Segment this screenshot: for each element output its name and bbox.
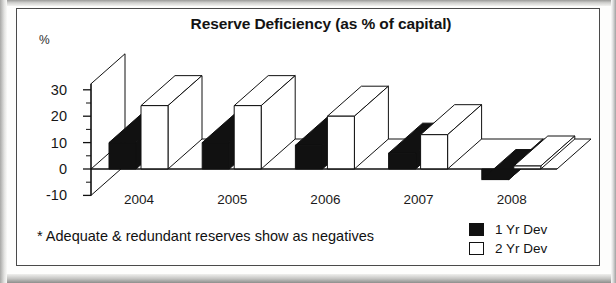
bar-front-face [389,153,416,169]
page-edge-top [0,0,616,6]
legend-swatch-icon [469,223,484,236]
page-edge-right [611,0,616,283]
page-edge-bottom [0,274,616,283]
chart-legend: 1 Yr Dev2 Yr Dev [469,221,589,259]
bar-front-face [141,106,168,169]
y-tick-label-20: 20 [33,108,67,124]
legend-swatch-icon [469,242,484,255]
bar-2004-2-yr-dev [141,76,202,169]
bar-2006-2-yr-dev [327,86,388,169]
scanned-page-area: Reserve Deficiency (as % of capital) % -… [0,0,616,283]
y-tick-label-10: 10 [33,135,67,151]
bar-front-face [421,135,448,169]
legend-label: 2 Yr Dev [495,241,547,256]
legend-label: 1 Yr Dev [495,222,547,237]
bars-group [109,76,575,180]
chart-frame: Reserve Deficiency (as % of capital) % -… [16,8,600,266]
x-tick-label-2004: 2004 [124,192,154,207]
x-axis: 20042005200620072008 [17,192,601,214]
page-edge-left [0,0,7,283]
bar-2005-2-yr-dev [234,76,295,169]
bar-front-face [327,116,354,169]
x-tick-label-2006: 2006 [310,192,340,207]
bar-front-face [234,106,261,169]
bar-2007-2-yr-dev [421,105,482,169]
legend-item-1-yr-dev[interactable]: 1 Yr Dev [469,221,589,238]
x-tick-label-2007: 2007 [404,192,434,207]
bar-front-face [109,143,136,169]
x-tick-label-2008: 2008 [497,192,527,207]
x-tick-label-2005: 2005 [217,192,247,207]
axis-side-wall [91,54,125,196]
legend-item-2-yr-dev[interactable]: 2 Yr Dev [469,240,589,257]
bar-front-face [202,143,229,169]
bar-front-face [295,145,322,169]
y-tick-label-30: 30 [33,82,67,98]
y-tick-label-0: 0 [33,161,67,177]
chart-footnote: * Adequate & redundant reserves show as … [37,228,374,244]
y-axis-ticks [83,90,91,196]
